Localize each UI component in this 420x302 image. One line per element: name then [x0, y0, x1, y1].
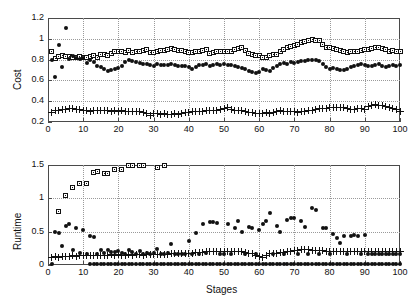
x-tick-label: 20	[104, 267, 132, 277]
x-tick-label: 80	[316, 267, 344, 277]
x-tick-mark	[189, 118, 190, 122]
data-point-dot	[331, 232, 335, 236]
data-point-dot	[356, 234, 360, 238]
x-tick-label: 10	[69, 124, 97, 134]
data-point-dot	[194, 231, 198, 235]
data-point-dot	[335, 236, 339, 240]
x-tick-mark	[224, 118, 225, 122]
data-point-dot	[60, 244, 64, 248]
data-point-dot	[81, 56, 85, 60]
data-point-square	[84, 181, 89, 186]
data-point-dot	[398, 63, 402, 67]
data-point-square	[162, 163, 167, 168]
data-point-square	[56, 209, 61, 214]
x-tick-mark	[294, 118, 295, 122]
data-point-dot	[278, 230, 282, 234]
data-point-dot	[268, 211, 272, 215]
x-tick-mark	[83, 261, 84, 265]
x-tick-label: 100	[386, 267, 414, 277]
data-point-square	[130, 163, 135, 168]
data-point-dot	[363, 233, 367, 237]
runtime-y-axis-title: Runtime	[12, 213, 23, 250]
x-tick-label: 100	[386, 124, 414, 134]
y-tick-mark	[48, 39, 52, 40]
data-point-square	[155, 165, 160, 170]
y-tick-mark	[48, 232, 52, 233]
y-tick-label: 0.8	[12, 54, 44, 64]
x-tick-mark	[365, 118, 366, 122]
x-tick-label: 90	[351, 267, 379, 277]
data-point-dot	[233, 226, 237, 230]
data-point-dot	[81, 228, 85, 232]
y-tick-mark	[48, 198, 52, 199]
x-tick-mark	[118, 118, 119, 122]
data-point-dot	[92, 235, 96, 239]
data-point-dot	[92, 60, 96, 64]
y-tick-label: 1.5	[12, 159, 44, 169]
x-tick-mark	[330, 118, 331, 122]
data-point-square	[398, 49, 403, 54]
x-tick-label: 80	[316, 124, 344, 134]
data-point-square	[119, 167, 124, 172]
y-tick-mark	[48, 101, 52, 102]
x-tick-label: 20	[104, 124, 132, 134]
data-point-plus	[397, 248, 404, 255]
data-point-dot	[57, 231, 61, 235]
x-tick-label: 70	[280, 267, 308, 277]
data-point-square	[95, 169, 100, 174]
data-point-square	[49, 49, 54, 54]
y-tick-label: 1	[12, 33, 44, 43]
x-tick-mark	[83, 118, 84, 122]
x-tick-label: 30	[140, 267, 168, 277]
x-tick-label: 40	[175, 124, 203, 134]
data-point-dot	[324, 226, 328, 230]
data-point-dot	[240, 230, 244, 234]
data-point-dot	[342, 234, 346, 238]
y-tick-mark	[48, 122, 52, 123]
y-tick-label: 0.2	[12, 116, 44, 126]
y-tick-label: 0.4	[12, 95, 44, 105]
data-point-dot	[120, 64, 124, 68]
y-tick-label: 0	[12, 259, 44, 269]
data-point-square	[77, 181, 82, 186]
x-tick-label: 90	[351, 124, 379, 134]
x-tick-label: 70	[280, 124, 308, 134]
x-tick-label: 30	[140, 124, 168, 134]
x-tick-mark	[400, 118, 401, 122]
data-point-dot	[60, 65, 64, 69]
data-point-square	[112, 167, 117, 172]
x-tick-label: 40	[175, 267, 203, 277]
data-point-dot	[187, 239, 191, 243]
x-tick-mark	[259, 118, 260, 122]
runtime-x-axis-title: Stages	[206, 284, 237, 295]
data-point-dot	[201, 222, 205, 226]
y-tick-mark	[48, 165, 52, 166]
data-point-dot	[314, 208, 318, 212]
cost-chart-panel	[48, 18, 400, 122]
x-tick-label: 60	[245, 267, 273, 277]
x-tick-mark	[154, 118, 155, 122]
data-point-dot	[50, 262, 54, 266]
x-tick-label: 50	[210, 267, 238, 277]
data-point-dot	[50, 58, 54, 62]
data-point-dot	[57, 43, 61, 47]
data-point-square	[70, 185, 75, 190]
data-point-dot	[226, 222, 230, 226]
figure-root: 01020304050607080901000.20.40.60.811.2 C…	[0, 0, 420, 302]
data-point-square	[141, 163, 146, 168]
data-point-plus	[397, 108, 404, 115]
data-point-dot	[398, 262, 402, 266]
cost-y-axis-title: Cost	[12, 69, 23, 90]
y-tick-mark	[48, 80, 52, 81]
y-tick-mark	[48, 18, 52, 19]
x-tick-label: 60	[245, 124, 273, 134]
y-tick-label: 1.2	[12, 12, 44, 22]
data-point-dot	[215, 221, 219, 225]
data-point-dot	[303, 225, 307, 229]
data-point-square	[105, 171, 110, 176]
x-tick-label: 50	[210, 124, 238, 134]
runtime-chart-panel	[48, 165, 400, 265]
y-tick-label: 1	[12, 192, 44, 202]
data-point-square	[63, 193, 68, 198]
x-tick-label: 10	[69, 267, 97, 277]
